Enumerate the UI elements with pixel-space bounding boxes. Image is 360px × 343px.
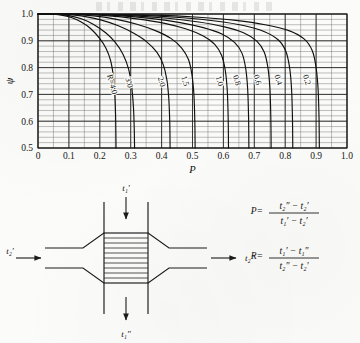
x-tick-label-group: 00.10.20.30.40.50.60.70.80.91.0 (36, 151, 354, 161)
y-tick-label: 0.6 (21, 117, 33, 127)
svg-text:2.0: 2.0 (156, 75, 167, 87)
equation-r-lhs: R= (250, 251, 263, 261)
y-tick-label: 0.7 (21, 90, 33, 100)
curve-3-0 (38, 14, 135, 148)
equation-p: P= t₂″ − t₂′ t₁′ − t₂′ (250, 201, 319, 226)
curve-label-0-6: 0.60.6 (252, 74, 263, 86)
equation-r-numerator: t₁′ − t₁″ (279, 246, 309, 256)
curve-label-R-4-0: R=4.0R=4.0 (105, 73, 119, 95)
svg-text:0.2: 0.2 (301, 74, 312, 86)
tube-bundle (104, 233, 148, 283)
svg-text:0.4: 0.4 (273, 74, 284, 86)
y-tick-label: 0.9 (21, 36, 33, 46)
diagram-canvas: t₁′ t₁″ t₂′ t₂″ P= t₂″ − t₂′ t₁′ − t₂′ R… (0, 180, 360, 343)
curve-label-3-0: 3.03.0 (123, 76, 134, 88)
x-tick-label: 0.9 (310, 151, 322, 161)
y-tick-label: 0.5 (21, 143, 33, 153)
x-tick-label: 1.0 (341, 151, 353, 161)
x-tick-label: 0.4 (156, 151, 168, 161)
curve-label-2-0: 2.02.0 (156, 75, 167, 87)
x-tick-label: 0.6 (217, 151, 229, 161)
figure-root: R=4.0R=4.03.03.02.02.01.51.51.01.00.80.8… (0, 0, 360, 343)
equation-r-denominator: t₂″ − t₂′ (279, 261, 309, 271)
x-tick-label: 0.8 (279, 151, 291, 161)
exchanger-diagram-and-equations: t₁′ t₁″ t₂′ t₂″ P= t₂″ − t₂′ t₁′ − t₂′ R… (0, 180, 360, 343)
stream-label-left-inlet: t₂′ (6, 246, 15, 256)
flow-arrows (16, 197, 236, 320)
stream-label-top-inlet: t₁′ (122, 183, 131, 193)
y-tick-label: 1.0 (21, 9, 33, 19)
x-tick-label: 0.1 (63, 151, 75, 161)
svg-text:R=4.0: R=4.0 (105, 73, 119, 95)
chart-canvas: R=4.0R=4.03.03.02.02.01.51.51.01.00.80.8… (0, 0, 360, 182)
equation-r: R= t₁′ − t₁″ t₂″ − t₂′ (250, 246, 319, 271)
curve-R-4-0 (38, 14, 116, 148)
curve-2-0 (38, 14, 170, 148)
x-tick-label: 0.3 (125, 151, 137, 161)
x-tick-label: 0.2 (94, 151, 106, 161)
curve-label-0-2: 0.20.2 (301, 74, 312, 86)
svg-text:0.6: 0.6 (252, 74, 263, 86)
x-tick-label: 0.7 (248, 151, 260, 161)
curve-label-0-8: 0.80.8 (231, 74, 242, 86)
x-tick-label: 0 (36, 151, 41, 161)
x-tick-label: 0.5 (187, 151, 199, 161)
equation-p-numerator: t₂″ − t₂′ (279, 201, 309, 211)
psi-p-chart: R=4.0R=4.03.03.02.02.01.51.51.01.00.80.8… (0, 0, 360, 182)
stream-label-bottom-outlet: t₁″ (121, 329, 131, 339)
curve-label-1-5: 1.51.5 (179, 75, 190, 87)
curve-label-group: R=4.0R=4.03.03.02.02.01.51.51.01.00.80.8… (105, 73, 313, 95)
equation-p-lhs: P= (250, 206, 263, 216)
curve-label-0-4: 0.40.4 (273, 74, 284, 86)
x-axis-title: P (188, 164, 196, 175)
equation-p-denominator: t₁′ − t₂′ (280, 216, 308, 226)
y-tick-label: 0.8 (21, 63, 33, 73)
svg-text:1.5: 1.5 (179, 75, 190, 87)
y-tick-label-group: 0.50.60.70.80.91.0 (21, 9, 33, 153)
svg-text:3.0: 3.0 (123, 76, 134, 88)
y-axis-title: ψ (4, 77, 15, 84)
svg-text:0.8: 0.8 (231, 74, 242, 86)
